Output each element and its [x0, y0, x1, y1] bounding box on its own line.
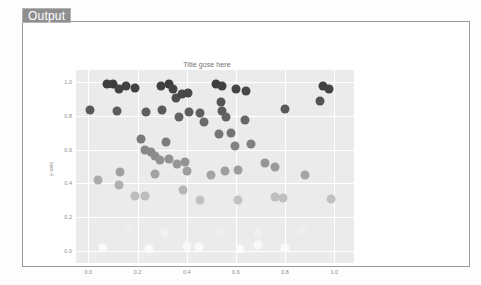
y-tick-label: 0.6 — [52, 147, 72, 153]
scatter-point — [298, 225, 307, 234]
scatter-point — [196, 195, 205, 204]
scatter-point — [278, 193, 287, 202]
scatter-point — [254, 228, 263, 237]
gridline-vertical — [334, 70, 335, 263]
output-tab-label[interactable]: Output — [22, 8, 71, 23]
scatter-point — [226, 128, 235, 137]
scatter-point — [140, 192, 149, 201]
scatter-point — [246, 140, 255, 149]
scatter-point — [124, 225, 133, 234]
gridline-horizontal — [76, 217, 354, 218]
y-tick-label: 0.2 — [52, 214, 72, 220]
scatter-point — [218, 82, 227, 91]
y-tick-label: 0.0 — [52, 248, 72, 254]
gridline-horizontal — [76, 116, 354, 117]
scatter-point — [240, 115, 249, 124]
scatter-point — [231, 84, 240, 93]
scatter-point — [137, 135, 146, 144]
y-tick-label: 0.8 — [52, 113, 72, 119]
scatter-point — [234, 196, 243, 205]
scatter-point — [158, 105, 167, 114]
scatter-point — [183, 88, 192, 97]
scatter-point — [241, 87, 250, 96]
scatter-point — [160, 229, 169, 238]
scatter-chart-figure: Title gose here y axis 1.00.80.60.40.20.… — [47, 45, 367, 285]
x-tick-label: 0.4 — [183, 269, 191, 275]
chart-title: Title gose here — [47, 61, 367, 68]
scatter-point — [315, 97, 324, 106]
scatter-point — [116, 167, 125, 176]
scatter-point — [85, 105, 94, 114]
scatter-point — [131, 192, 140, 201]
x-tick-label: 0.6 — [232, 269, 240, 275]
x-tick-label: 0.8 — [281, 269, 289, 275]
scatter-point — [325, 84, 334, 93]
scatter-point — [112, 106, 121, 115]
y-tick-label: 0.4 — [52, 180, 72, 186]
scatter-point — [214, 226, 223, 235]
scatter-point — [131, 83, 140, 92]
scatter-point — [220, 166, 229, 175]
scatter-point — [182, 166, 191, 175]
scatter-point — [182, 242, 191, 251]
scatter-point — [281, 104, 290, 113]
scatter-point — [235, 244, 244, 253]
scatter-point — [261, 159, 270, 168]
scatter-point — [207, 170, 216, 179]
scatter-point — [300, 170, 309, 179]
scatter-point — [222, 112, 231, 121]
scatter-point — [175, 113, 184, 122]
scatter-point — [161, 137, 170, 146]
scatter-point — [155, 155, 164, 164]
gridline-vertical — [285, 70, 286, 263]
scatter-point — [195, 242, 204, 251]
scatter-point — [326, 194, 335, 203]
gridline-vertical — [88, 70, 89, 263]
x-tick-label: 0.2 — [134, 269, 142, 275]
gridline-horizontal — [76, 251, 354, 252]
scatter-point — [122, 82, 131, 91]
scatter-point — [169, 84, 178, 93]
scatter-point — [185, 108, 194, 117]
scatter-point — [115, 181, 124, 190]
scatter-point — [254, 241, 263, 250]
x-tick-label: 1.0 — [330, 269, 338, 275]
y-axis-label: y axis — [48, 162, 54, 176]
scatter-point — [271, 162, 280, 171]
y-tick-label: 1.0 — [52, 79, 72, 85]
scatter-point — [234, 165, 243, 174]
gridline-vertical — [138, 70, 139, 263]
scatter-point — [214, 130, 223, 139]
plot-area — [76, 70, 354, 263]
scatter-point — [142, 108, 151, 117]
scatter-point — [230, 142, 239, 151]
scatter-point — [94, 176, 103, 185]
scatter-point — [179, 186, 188, 195]
scatter-point — [150, 170, 159, 179]
scatter-point — [196, 109, 205, 118]
gridline-horizontal — [76, 150, 354, 151]
scatter-point — [144, 245, 153, 254]
scatter-point — [99, 243, 108, 252]
x-tick-label: 0.0 — [84, 269, 92, 275]
output-panel: Title gose here y axis 1.00.80.60.40.20.… — [22, 21, 470, 267]
scatter-point — [281, 243, 290, 252]
scatter-point — [199, 118, 208, 127]
